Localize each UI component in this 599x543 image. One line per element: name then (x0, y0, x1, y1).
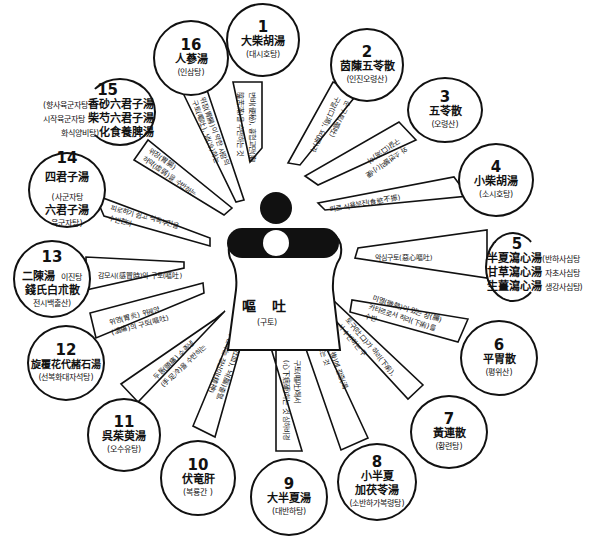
node-hanja: 半夏瀉心湯 (487, 252, 542, 265)
node-number: 11 (114, 414, 135, 430)
node-hanja: 六君子湯 (45, 204, 89, 218)
node-hanja: 錢氏白朮散 (25, 284, 80, 298)
node-number: 10 (188, 457, 209, 473)
node-number: 7 (444, 411, 454, 427)
center-hole (263, 230, 289, 256)
node-number: 14 (57, 150, 78, 166)
center-subtitle: (구토) (232, 316, 302, 327)
node-hangul: (대시호탕) (246, 49, 280, 61)
node-hanja: 甘草瀉心湯 (487, 266, 542, 279)
node-number: 13 (42, 249, 63, 265)
node-4: 4 小柴胡湯 (소시호탕) (458, 143, 534, 217)
node-hanja: 化食養脾湯 (99, 126, 154, 139)
node-15-labels: 15 (향사육군자탕香砂六君子湯 시작육군자탕 柴芍六君子湯 화식양비탕)化食養… (22, 82, 154, 140)
node-hanja: 黃連散 (433, 427, 466, 441)
node-hangul: (인진오령산) (346, 74, 387, 86)
node-hanja: 五苓散 (429, 105, 462, 119)
node-hanja: 伏竜肝 (182, 473, 215, 487)
node-hanja: 柴芍六君子湯 (88, 112, 154, 125)
svg-text:脇苦滿)을 수반하는 것: 脇苦滿)을 수반하는 것 (236, 92, 245, 156)
svg-text:(心下痞硬)하는 것 심하비경: (心下痞硬)하는 것 심하비경 (282, 360, 291, 440)
node-hangul: (오수유탕) (107, 444, 141, 456)
node-hangul: 시작육군자탕 (43, 115, 85, 124)
node-hangul: (선복화대자석탕) (38, 372, 93, 384)
node-7: 7 黃連散 (황련탕) (410, 395, 488, 469)
node-hanja: 小柴胡湯 (474, 175, 518, 189)
node-hanja: 生薑瀉心湯 (487, 280, 542, 293)
node-number: 4 (491, 159, 501, 175)
node-1: 1 大柴胡湯 (대시호탕) (226, 3, 300, 77)
node-10: 10 伏竜肝 (복룡간 ) (160, 440, 236, 516)
node-2: 2 茵蔯五苓散 (인진오령산) (330, 28, 404, 102)
node-number: 1 (258, 19, 268, 35)
node-hangul: 이진탕 (61, 273, 82, 282)
spoke-label-1b: 脇苦滿)을 수반하는 것 (236, 92, 245, 156)
spoke-label-9: 구토(嘔吐)해서 (293, 360, 302, 403)
node-hanja: 人蔘湯 (175, 53, 208, 67)
node-hanja: 大柴胡湯 (241, 35, 285, 49)
spoke-label-9b: (心下痞硬)하는 것 심하비경 (282, 360, 291, 440)
node-hangul: 생강사심탕) (545, 283, 583, 292)
node-number: 5 (487, 236, 547, 252)
node-hanja: 呉茱萸湯 (102, 430, 146, 444)
node-number: 8 (372, 454, 382, 470)
node-hangul: (황련탕) (435, 441, 462, 453)
center-title: 嘔 吐 (232, 295, 302, 315)
spoke-label-1: 변비(便秘), 흉협고만(胸 (248, 92, 257, 162)
node-16: 16 人蔘湯 (인삼탕) (153, 20, 229, 96)
node-hanja: 小半夏 (361, 470, 394, 484)
node-6: 6 平胃散 (평위산) (460, 320, 538, 396)
spoke-label-7: 토구(吐口)가 하리(下痢), (343, 316, 397, 378)
svg-text:악심구토(惡心嘔吐): 악심구토(惡心嘔吐) (375, 253, 433, 262)
node-hanja: 茵蔯五苓散 (340, 60, 395, 74)
node-5-labels: 5 半夏瀉心湯(반하사심탕 甘草瀉心湯 자초사심탕 生薑瀉心湯 생강사심탕) (487, 236, 599, 294)
node-hangul: 육군자탕) (51, 218, 82, 230)
node-hanja: 加茯苓湯 (355, 484, 399, 498)
svg-text:감모시(感冒時)의 구토(嘔吐): 감모시(感冒時)의 구토(嘔吐) (98, 271, 182, 280)
node-hangul: (인삼탕) (177, 67, 204, 79)
svg-text:변비(便秘), 흉협고만(胸: 변비(便秘), 흉협고만(胸 (248, 92, 257, 162)
node-13: 13 二陳湯 이진탕 錢氏白朮散 전시백출산) (13, 240, 91, 318)
node-number: 2 (362, 44, 372, 60)
node-11: 11 呉茱萸湯 (오수유탕) (87, 398, 161, 472)
spoke-label-5: 악심구토(惡心嘔吐) (375, 253, 433, 262)
node-hanja: 香砂六君子湯 (88, 98, 154, 111)
node-number: 9 (284, 476, 294, 492)
node-hanja: 二陳湯 (22, 270, 55, 283)
node-hangul: (대반하탕) (272, 506, 306, 518)
node-hangul: 화식양비탕) (61, 129, 99, 138)
node-9: 9 大半夏湯 (대반하탕) (250, 458, 328, 536)
node-number: 12 (56, 342, 77, 358)
node-hangul: (반하사심탕 (542, 255, 580, 264)
svg-text:구토(嘔吐)해서: 구토(嘔吐)해서 (293, 360, 302, 403)
node-hangul: (오령산) (431, 119, 458, 131)
node-hangul: 자초사심탕 (545, 269, 580, 278)
node-hangul: (복룡간 ) (183, 487, 213, 499)
node-number: 6 (494, 337, 504, 353)
node-hangul: (소반하가복령탕) (349, 498, 404, 510)
node-number: 16 (181, 37, 202, 53)
center-top-ball (260, 192, 292, 224)
node-hangul: (평위산) (485, 367, 512, 379)
node-number: 3 (440, 89, 450, 105)
svg-text:토구(吐口)가 하리(下痢),: 토구(吐口)가 하리(下痢), (343, 316, 397, 378)
node-3: 3 五苓散 (오령산) (407, 77, 483, 143)
node-hangul: (소시호탕) (479, 189, 513, 201)
node-hanja: 四君子湯 (45, 171, 89, 184)
node-hangul: (사군자탕 (51, 193, 82, 202)
node-14: 14 四君子湯(사군자탕 六君子湯 육군자탕) (28, 152, 106, 228)
node-hanja: 旋覆花代赭石湯 (31, 358, 101, 372)
node-number: 15 (22, 82, 154, 98)
node-hangul: 전시백출산) (33, 298, 71, 310)
node-hanja: 大半夏湯 (267, 492, 311, 506)
node-hangul: (향사육군자탕 (43, 101, 88, 110)
node-12: 12 旋覆花代赭石湯 (선복화대자석탕) (27, 325, 105, 401)
node-8: 8 小半夏 加茯苓湯 (소반하가복령탕) (337, 443, 417, 521)
node-hanja: 平胃散 (483, 353, 516, 367)
spoke-label-13: 감모시(感冒時)의 구토(嘔吐) (98, 271, 182, 280)
